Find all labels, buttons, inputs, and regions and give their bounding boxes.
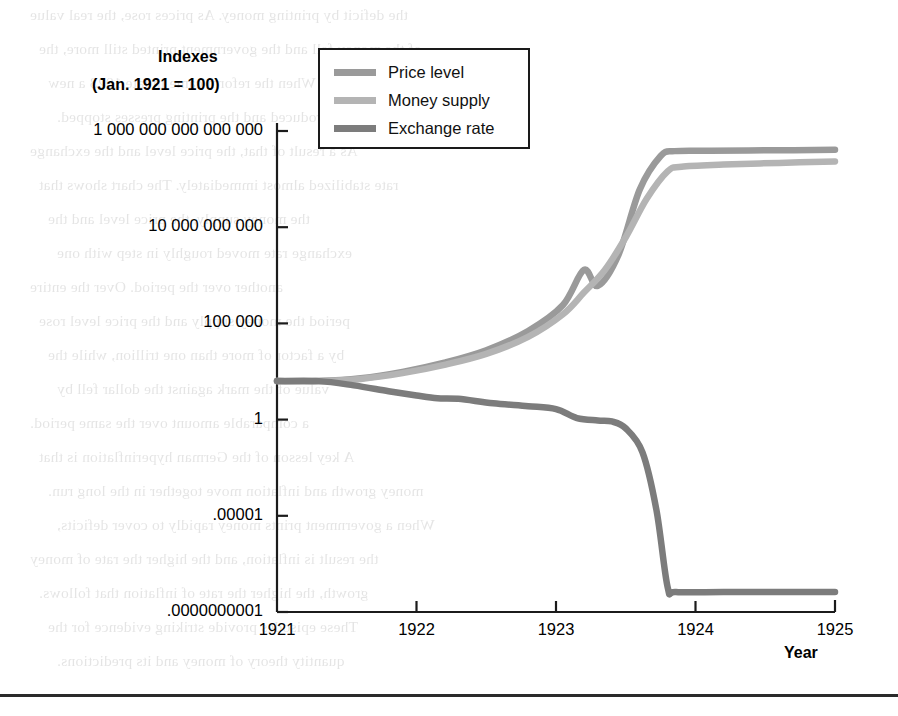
- y-tick-label: 100 000: [0, 312, 263, 331]
- x-tick-label: 1925: [790, 620, 880, 639]
- y-tick-label: .00001: [0, 505, 263, 524]
- chart-legend: Price levelMoney supplyExchange rate: [318, 48, 530, 149]
- series-lines: [277, 150, 835, 595]
- legend-item: Price level: [334, 58, 528, 86]
- x-axis-title: Year: [784, 644, 818, 662]
- legend-item: Exchange rate: [334, 114, 528, 142]
- legend-item: Money supply: [334, 86, 528, 114]
- legend-label: Money supply: [388, 91, 490, 110]
- x-tick-label: 1921: [232, 620, 322, 639]
- y-axis-title-line1: Indexes: [158, 48, 218, 66]
- y-tick-label: .0000000001: [0, 601, 263, 620]
- legend-swatch: [334, 69, 376, 76]
- y-tick-label: 1 000 000 000 000 000: [0, 120, 263, 139]
- legend-label: Price level: [388, 63, 464, 82]
- y-tick-label: 1: [0, 409, 263, 428]
- axis-lines: [277, 123, 835, 612]
- horizontal-rule: [0, 694, 898, 697]
- x-tick-label: 1924: [651, 620, 741, 639]
- y-axis-title-line2: (Jan. 1921 = 100): [92, 76, 220, 94]
- x-tick-label: 1922: [372, 620, 462, 639]
- chart-figure: Indexes (Jan. 1921 = 100) Year 1 000 000…: [0, 0, 898, 716]
- legend-swatch: [334, 97, 376, 104]
- legend-label: Exchange rate: [388, 119, 494, 138]
- legend-swatch: [334, 125, 376, 132]
- x-tick-label: 1923: [511, 620, 601, 639]
- y-tick-label: 10 000 000 000: [0, 216, 263, 235]
